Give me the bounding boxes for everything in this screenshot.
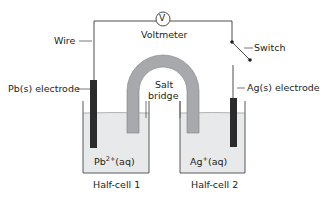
salt-bridge-label-line2: bridge: [148, 91, 178, 101]
voltmeter-label: Voltmeter: [141, 30, 188, 40]
ag-electrode-label: Ag(s) electrode: [247, 83, 320, 93]
half-cell-2-label: Half-cell 2: [191, 180, 238, 190]
switch-label: Switch: [254, 43, 285, 53]
half-cell-1-label: Half-cell 1: [93, 180, 140, 190]
salt-bridge-label-line1: Salt: [155, 80, 173, 90]
left-solution-charge: 2+: [106, 155, 116, 163]
pb-electrode-label: Pb(s) electrode: [8, 84, 80, 94]
voltmeter-symbol: V: [159, 14, 165, 23]
left-solution-ion: Pb: [94, 156, 106, 167]
right-solution-ion: Ag: [190, 156, 203, 167]
left-solution-state: (aq): [115, 156, 134, 167]
left-solution-label: Pb2+(aq): [94, 156, 135, 167]
switch: [230, 40, 252, 62]
right-solution-state: (aq): [208, 156, 227, 167]
ag-electrode: [230, 98, 237, 147]
right-solution-label: Ag+(aq): [190, 156, 227, 167]
wire-label: Wire: [54, 36, 75, 46]
pb-electrode: [90, 80, 97, 148]
